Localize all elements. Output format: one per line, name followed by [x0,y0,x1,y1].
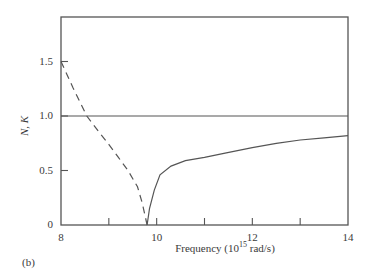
tick-marks [61,62,300,226]
data-series [61,62,348,226]
y-axis-label: N, K [18,116,30,136]
y-tick-label: 0.5 [23,164,53,176]
axes-frame [61,17,348,225]
x-tick-label: 8 [46,231,76,243]
panel-label: (b) [22,256,35,268]
series-line [147,136,348,225]
x-tick-label: 14 [333,231,363,243]
y-tick-label: 1.5 [23,55,53,67]
plot-border [61,17,348,225]
x-axis-label: Frequency (1015 rad/s) [150,240,300,254]
series-line [61,62,147,226]
y-tick-label: 0 [23,218,53,230]
